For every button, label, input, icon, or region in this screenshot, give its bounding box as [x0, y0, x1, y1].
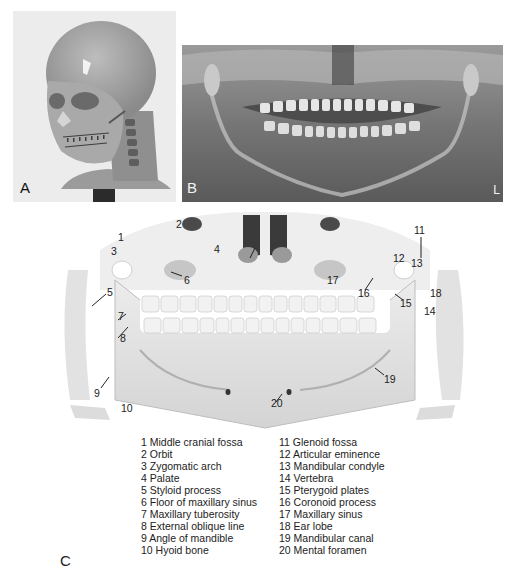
legend-item: 3 Zygomatic arch — [141, 460, 257, 472]
head-model-illustration — [13, 11, 176, 202]
legend-item: 5 Styloid process — [141, 484, 257, 496]
diagram-label-7: 7 — [118, 311, 124, 322]
legend-item: 19 Mandibular canal — [279, 532, 385, 544]
diagram-label-1: 1 — [118, 232, 124, 243]
diagram-label-11: 11 — [414, 225, 425, 236]
panel-letter-c: C — [60, 552, 71, 569]
diagram-label-17: 17 — [327, 275, 339, 286]
diagram-label-3: 3 — [111, 246, 117, 257]
diagram-label-13: 13 — [411, 258, 423, 269]
diagram-label-14: 14 — [424, 306, 436, 317]
panel-b-panoramic-radiograph: B L — [182, 45, 503, 202]
diagram-label-16: 16 — [358, 288, 370, 299]
legend-item: 9 Angle of mandible — [141, 532, 257, 544]
legend-item: 15 Pterygoid plates — [279, 484, 385, 496]
diagram-label-5: 5 — [107, 287, 113, 298]
legend-column-left: 1 Middle cranial fossa 2 Orbit 3 Zygomat… — [141, 436, 257, 556]
legend-item: 11 Glenoid fossa — [279, 436, 385, 448]
legend-item: 10 Hyoid bone — [141, 544, 257, 556]
panel-letter-b: B — [187, 179, 197, 196]
legend-item: 4 Palate — [141, 472, 257, 484]
legend-item: 16 Coronoid process — [279, 496, 385, 508]
diagram-label-18: 18 — [430, 288, 442, 299]
panel-letter-a: A — [20, 179, 30, 196]
diagram-label-4: 4 — [214, 244, 220, 255]
legend-item: 17 Maxillary sinus — [279, 508, 385, 520]
panoramic-xray-image — [182, 45, 503, 202]
diagram-label-8: 8 — [120, 333, 126, 344]
diagram-label-2: 2 — [176, 219, 182, 230]
diagram-label-6: 6 — [184, 275, 190, 286]
legend-item: 1 Middle cranial fossa — [141, 436, 257, 448]
diagram-label-20: 20 — [271, 398, 283, 409]
legend-item: 6 Floor of maxillary sinus — [141, 496, 257, 508]
diagram-label-10: 10 — [121, 403, 133, 414]
legend-item: 14 Vertebra — [279, 472, 385, 484]
diagram-label-12: 12 — [393, 253, 405, 264]
diagram-label-15: 15 — [400, 298, 412, 309]
legend-item: 13 Mandibular condyle — [279, 460, 385, 472]
legend-column-right: 11 Glenoid fossa 12 Articular eminence 1… — [279, 436, 385, 556]
legend-item: 7 Maxillary tuberosity — [141, 508, 257, 520]
left-side-marker: L — [493, 183, 500, 197]
legend-item: 8 External oblique line — [141, 520, 257, 532]
legend-item: 18 Ear lobe — [279, 520, 385, 532]
legend-item: 12 Articular eminence — [279, 448, 385, 460]
legend-item: 2 Orbit — [141, 448, 257, 460]
panel-a-head-model: A — [13, 11, 176, 202]
diagram-label-19: 19 — [384, 374, 396, 385]
diagram-label-9: 9 — [94, 388, 100, 399]
legend-item: 20 Mental foramen — [279, 544, 385, 556]
